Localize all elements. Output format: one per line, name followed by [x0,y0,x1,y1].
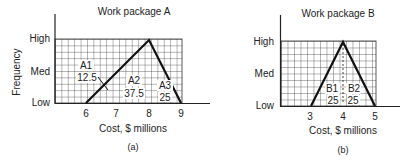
chart-a-xtick: 9 [178,108,184,119]
chart-a-ytick-high: High [29,33,50,44]
chart-a: Work package A A1 12.5 A2 37.5 A3 25 Hig… [11,6,210,152]
chart-a-ylabel: Frequency [11,48,22,95]
region-a2-label: A2 [128,75,141,86]
region-b1-value: 25 [327,95,339,106]
region-b1-label: B1 [326,83,339,94]
chart-a-caption: (a) [128,142,139,152]
chart-b-ytick-high: High [253,36,274,47]
figure: Work package A A1 12.5 A2 37.5 A3 25 Hig… [0,0,414,163]
chart-a-ytick-med: Med [31,66,50,77]
chart-a-title: Work package A [98,6,171,17]
region-b2-value: 25 [347,95,359,106]
chart-a-xlabel: Cost, $ millions [99,123,167,134]
chart-b-xtick: 5 [372,111,378,122]
chart-b-ytick-low: Low [256,100,275,111]
chart-b: Work package B B1 B2 25 25 High Med Low … [253,8,400,155]
chart-a-xtick: 7 [113,108,119,119]
chart-b-xlabel: Cost, $ millions [309,125,377,136]
chart-b-xtick: 3 [307,111,313,122]
region-a3-label: A3 [159,80,172,91]
chart-a-ytick-low: Low [32,97,51,108]
region-a3-value: 25 [159,92,171,103]
region-a2-value: 37.5 [124,88,144,99]
chart-a-xtick: 6 [83,108,89,119]
chart-a-xtick: 8 [146,108,152,119]
chart-b-ytick-med: Med [255,68,274,79]
chart-b-title: Work package B [301,8,375,19]
region-b2-label: B2 [348,83,361,94]
chart-b-xtick: 4 [340,111,346,122]
region-a1-label: A1 [80,60,93,71]
chart-b-caption: (b) [338,145,349,155]
region-a1-value: 12.5 [77,72,97,83]
